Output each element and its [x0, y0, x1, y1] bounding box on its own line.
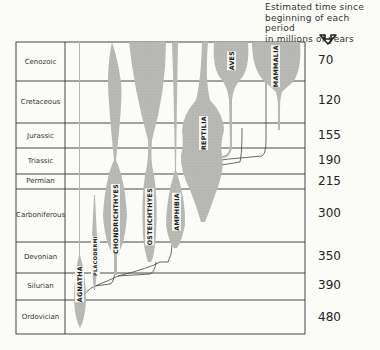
age-triassic: 190 [318, 153, 341, 167]
age-carboniferous: 300 [318, 206, 341, 220]
taxon-label-aves: AVES [227, 51, 236, 70]
age-jurassic: 155 [318, 128, 341, 142]
age-permian: 215 [318, 174, 341, 188]
taxon-label-chondrichthyes: CHONDRICHTHYES [111, 184, 120, 254]
taxon-label-amphibia: AMPHIBIA [172, 193, 181, 231]
age-cenozoic: 70 [318, 53, 333, 67]
taxon-label-agnatha: AGNATHA [75, 266, 84, 302]
age-ordovician: 480 [318, 310, 341, 324]
period-label-ordovician: Ordovician [16, 313, 65, 321]
period-label-jurassic: Jurassic [16, 132, 65, 140]
period-label-devonian: Devonian [16, 253, 65, 261]
taxon-label-reptilia: REPTILIA [199, 116, 208, 150]
age-devonian: 350 [318, 249, 341, 263]
age-silurian: 390 [318, 278, 341, 292]
period-label-triassic: Triassic [16, 157, 65, 165]
taxon-label-osteichthyes: OSTEICHTHYES [145, 188, 154, 245]
period-label-silurian: Silurian [16, 282, 65, 290]
age-cretaceous: 120 [318, 93, 341, 107]
period-label-carboniferous: Carboniferous [16, 211, 65, 219]
period-label-cenozoic: Cenozoic [16, 58, 65, 66]
period-label-cretaceous: Cretaceous [16, 98, 65, 106]
taxon-label-placodermi: PLACODERMI [91, 236, 100, 276]
period-label-permian: Permian [16, 177, 65, 185]
taxon-label-mammalia: MAMMALIA [271, 45, 280, 87]
